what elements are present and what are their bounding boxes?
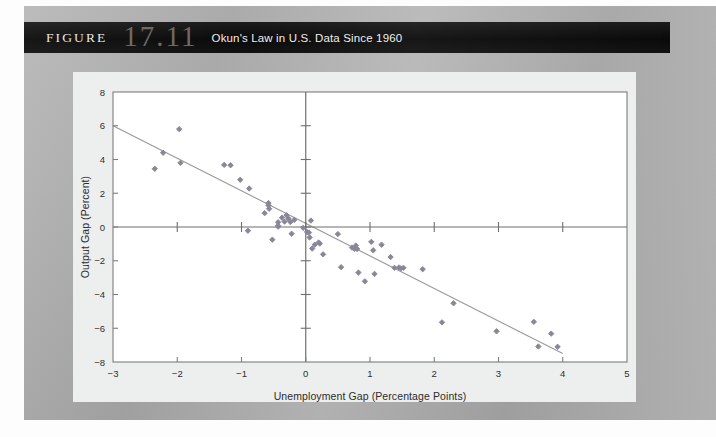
x-tick-label: 5 [624, 368, 629, 379]
y-tick-label: −2 [94, 255, 105, 266]
page-bottom-margin [0, 420, 716, 437]
figure-number: 17.11 [123, 22, 197, 53]
figure-label: FIGURE [46, 30, 107, 46]
y-tick-label: −6 [94, 323, 105, 334]
x-tick-label: 4 [560, 368, 565, 379]
scatter-chart: −3−2−1012345−8−6−4−202468 Unemployment G… [73, 72, 636, 402]
x-tick-label: 0 [303, 368, 308, 379]
y-tick-label: −8 [94, 357, 105, 368]
y-axis-title: Output Gap (Percent) [79, 176, 91, 278]
x-tick-label: 2 [432, 368, 437, 379]
x-tick-label: −3 [108, 368, 119, 379]
x-axis-title: Unemployment Gap (Percentage Points) [274, 390, 467, 402]
x-tick-label: −2 [172, 368, 183, 379]
y-tick-label: 2 [100, 188, 105, 199]
x-tick-label: −1 [236, 368, 247, 379]
page-top-margin [0, 0, 716, 6]
page-left-gutter [0, 0, 24, 426]
x-tick-label: 1 [367, 368, 372, 379]
y-tick-label: 0 [100, 222, 105, 233]
y-tick-label: 4 [100, 154, 105, 165]
figure-caption: Okun's Law in U.S. Data Since 1960 [212, 32, 403, 44]
figure-title-bar: FIGURE 17.11 Okun's Law in U.S. Data Sin… [24, 22, 670, 53]
y-tick-label: 6 [100, 120, 105, 131]
y-tick-label: −4 [94, 289, 105, 300]
chart-canvas: −3−2−1012345−8−6−4−202468 Unemployment G… [73, 72, 636, 402]
x-tick-label: 3 [496, 368, 501, 379]
figure-title-inner: FIGURE 17.11 Okun's Law in U.S. Data Sin… [24, 22, 670, 53]
figure-page: FIGURE 17.11 Okun's Law in U.S. Data Sin… [0, 0, 716, 437]
y-tick-label: 8 [100, 87, 105, 98]
